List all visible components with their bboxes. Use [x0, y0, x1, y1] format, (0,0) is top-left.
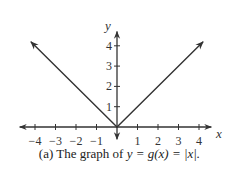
- ticks: −4−3−2−112341234: [29, 39, 202, 148]
- caption-prefix: (a) The graph of: [39, 146, 127, 161]
- y-axis-label: y: [103, 18, 111, 33]
- svg-text:1: 1: [106, 100, 112, 114]
- x-axis-label: x: [215, 126, 222, 141]
- svg-text:3: 3: [106, 59, 112, 73]
- figure-caption: (a) The graph of y = g(x) = |x|.: [0, 146, 239, 162]
- svg-text:2: 2: [106, 79, 112, 93]
- caption-formula: y = g(x) = |x|.: [127, 146, 200, 161]
- svg-text:4: 4: [106, 39, 112, 53]
- axes: [20, 32, 212, 140]
